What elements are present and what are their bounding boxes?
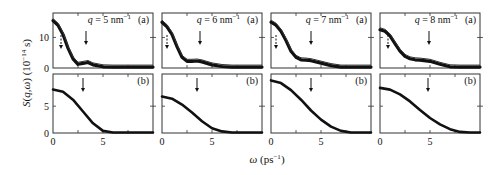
panel-3-a: (a)q = 7 nm−1 [271,13,374,68]
panel-1-b: (b) [53,74,156,133]
panel-label: (a) [465,14,476,26]
x-tick-label: 0 [160,136,165,147]
x-tick-label: 0 [378,136,383,147]
panel-4-a: (a)q = 8 nm−1 [380,13,483,68]
arrow-down-icon [427,41,431,45]
arrow-down-icon [309,88,313,92]
data-curve [271,22,371,67]
q-label: q = 6 nm−1 [197,13,241,25]
arrow-down-icon [274,45,278,49]
panel-label: (b) [464,75,476,87]
data-curve [162,97,262,133]
panel-2-b: (b) [162,74,265,133]
data-curve [271,80,371,132]
x-tick-label: 0 [269,136,274,147]
data-curve [53,90,153,133]
x-tick-label: 5 [210,136,215,147]
q-label: q = 8 nm−1 [415,13,459,25]
data-curve [380,30,480,67]
arrow-down-icon [81,88,85,92]
panel-label: (b) [137,75,149,87]
y-tick-label: 5 [44,101,49,112]
panel-label: (b) [355,75,367,87]
x-axis-label: ω (ps−1) [249,153,284,166]
x-tick-label: 0 [51,136,56,147]
arrow-down-icon [426,88,430,92]
panel-label: (a) [138,14,149,26]
arrow-down-icon [84,41,88,45]
chart-area: (a)q = 5 nm−1(b)05(a)q = 6 nm−1(b)05(a)q… [0,0,499,175]
panel-label: (b) [246,75,258,87]
data-curve [53,21,153,68]
panel-4-b: (b) [380,74,483,133]
x-tick-label: 5 [319,136,324,147]
panel-2-a: (a)q = 6 nm−1 [162,13,265,68]
y-tick-label: 10 [39,32,49,43]
arrow-down-icon [198,41,202,45]
data-curve [380,88,480,133]
panel-label: (a) [356,14,367,26]
panel-label: (a) [247,14,258,26]
arrow-down-icon [386,45,390,49]
y-axis-label: S(q,ω) (10−14 s) [20,39,33,107]
panel-3-b: (b) [271,74,374,133]
figure: (a)q = 5 nm−1(b)05(a)q = 6 nm−1(b)05(a)q… [0,0,499,175]
x-tick-label: 5 [428,136,433,147]
q-label: q = 5 nm−1 [88,13,132,25]
y-tick-label: 0 [44,128,49,139]
arrow-down-icon [309,41,313,45]
y-tick-label: 0 [44,63,49,74]
arrow-down-icon [165,45,169,49]
q-label: q = 7 nm−1 [306,13,350,25]
x-tick-label: 5 [101,136,106,147]
arrow-down-icon [195,88,199,92]
panel-1-a: (a)q = 5 nm−1 [53,13,156,68]
arrow-down-icon [59,45,63,49]
